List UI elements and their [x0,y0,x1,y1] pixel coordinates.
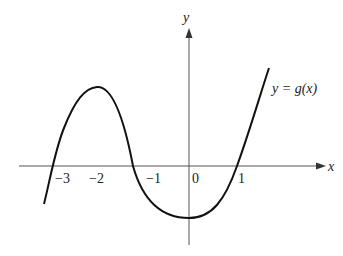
y-axis-arrow-icon [186,28,193,38]
tick-label-1: 1 [238,171,245,186]
graph: y x −3 −2 −1 0 1 y = g(x) [0,0,343,256]
tick-label-m3: −3 [55,171,70,186]
x-axis-arrow-icon [316,163,326,170]
tick-label-0: 0 [192,171,199,186]
tick-label-m1: −1 [146,171,161,186]
curve-label: y = g(x) [270,81,318,97]
x-axis-label: x [327,159,335,174]
tick-label-m2: −2 [89,171,104,186]
curve-g [44,68,269,218]
y-axis-label: y [181,10,190,25]
